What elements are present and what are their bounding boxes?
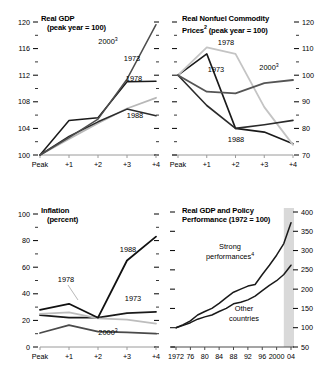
y-tick-label: 50 bbox=[301, 343, 309, 352]
x-tick-label: +3 bbox=[123, 160, 131, 169]
x-tick-label: +4 bbox=[289, 160, 297, 169]
x-tick-label: +3 bbox=[260, 160, 268, 169]
y-tick-label: 100 bbox=[302, 71, 314, 80]
x-tick-label: 92 bbox=[244, 352, 252, 361]
x-tick-label: Peak bbox=[32, 160, 49, 169]
y-tick-label: 20 bbox=[22, 316, 30, 325]
y-tick-label: 120 bbox=[302, 18, 314, 27]
y-tick-label: 80 bbox=[302, 124, 310, 133]
y-tick-label: 300 bbox=[301, 246, 313, 255]
series-label-strong-performances-1: Strong bbox=[219, 242, 241, 251]
chart-svg-inflation: 020406080100Peak+1+2+3+41988197819732000… bbox=[0, 192, 164, 384]
x-tick-label: +4 bbox=[152, 352, 160, 361]
series-label-1978: 1978 bbox=[58, 275, 74, 284]
y-tick-label: 70 bbox=[302, 151, 310, 160]
y-tick-label: 200 bbox=[301, 285, 313, 294]
x-tick-label: 1972 bbox=[168, 352, 184, 361]
series-label-other-countries-2: countries bbox=[229, 314, 259, 323]
series-line-1988 bbox=[178, 75, 293, 128]
x-tick-label: 04 bbox=[287, 352, 295, 361]
y-tick-label: 80 bbox=[22, 236, 30, 245]
panel-inflation: Inflation (percent) 020406080100Peak+1+2… bbox=[0, 192, 164, 384]
chart-svg-policy-performance: 5010015020025030035040019727680848892962… bbox=[164, 192, 329, 384]
y-tick-label: 60 bbox=[22, 263, 30, 272]
x-tick-label: 76 bbox=[186, 352, 194, 361]
series-label-1973: 1973 bbox=[125, 294, 141, 303]
x-tick-label: +1 bbox=[65, 160, 73, 169]
x-tick-label: 88 bbox=[230, 352, 238, 361]
x-tick-label: +3 bbox=[123, 352, 131, 361]
y-tick-label: 90 bbox=[302, 97, 310, 106]
series-label-other-countries-1: Other bbox=[235, 304, 254, 313]
y-tick-label: 40 bbox=[22, 289, 30, 298]
y-tick-label: 150 bbox=[301, 304, 313, 313]
x-tick-label: 2000 bbox=[269, 352, 285, 361]
series-line-strong-performances bbox=[176, 223, 291, 328]
y-tick-label: 350 bbox=[301, 227, 313, 236]
x-tick-label: +4 bbox=[152, 160, 160, 169]
y-tick-label: 0 bbox=[26, 343, 30, 352]
y-tick-label: 110 bbox=[302, 44, 313, 53]
series-label-1978: 1978 bbox=[218, 38, 234, 47]
panel-real-nonfuel-commodity-prices: Real Nonfuel Commodity Prices2 (peak yea… bbox=[164, 0, 329, 192]
four-panel-chart-figure: Real GDP (peak year = 100)Real GDP (peak… bbox=[0, 0, 329, 384]
chart-svg-real-gdp: 100104108112116120Peak+1+2+3+42000319731… bbox=[0, 0, 164, 192]
x-tick-label: 84 bbox=[215, 352, 223, 361]
y-tick-label: 400 bbox=[301, 208, 313, 217]
series-label-1988: 1988 bbox=[120, 245, 136, 254]
x-tick-label: +2 bbox=[94, 160, 102, 169]
x-tick-label: 80 bbox=[201, 352, 209, 361]
series-label-1973: 1973 bbox=[208, 65, 224, 74]
y-tick-label: 104 bbox=[18, 124, 30, 133]
series-label-1973: 1973 bbox=[124, 54, 140, 63]
x-tick-label: +1 bbox=[65, 352, 73, 361]
y-tick-label: 116 bbox=[19, 44, 30, 53]
y-tick-label: 250 bbox=[301, 265, 313, 274]
series-label-2000: 20003 bbox=[259, 62, 278, 72]
y-tick-label: 120 bbox=[18, 18, 30, 27]
series-label-2000: 20003 bbox=[98, 327, 117, 337]
panel-real-gdp-policy-performance: Real GDP and Policy Performance (1972 = … bbox=[164, 192, 329, 384]
x-tick-label: Peak bbox=[32, 352, 49, 361]
x-tick-label: Peak bbox=[170, 160, 187, 169]
x-tick-label: 96 bbox=[258, 352, 266, 361]
series-line-2000 bbox=[178, 75, 293, 93]
y-tick-label: 108 bbox=[18, 97, 30, 106]
series-label-1978: 1978 bbox=[126, 74, 142, 83]
series-label-1988: 1988 bbox=[228, 135, 244, 144]
y-tick-label: 100 bbox=[18, 151, 30, 160]
leader-line-1978 bbox=[68, 285, 78, 300]
panel-real-gdp: Real GDP (peak year = 100)Real GDP (peak… bbox=[0, 0, 164, 192]
y-tick-label: 112 bbox=[19, 71, 30, 80]
series-line-1978 bbox=[40, 98, 156, 155]
x-tick-label: +1 bbox=[203, 160, 211, 169]
x-tick-label: +2 bbox=[94, 352, 102, 361]
x-tick-label: +2 bbox=[231, 160, 239, 169]
y-tick-label: 100 bbox=[301, 323, 313, 332]
series-label-strong-performances-2: performances4 bbox=[206, 251, 254, 261]
series-label-1988: 1988 bbox=[127, 111, 143, 120]
y-tick-label: 100 bbox=[18, 210, 30, 219]
series-label-2000: 20003 bbox=[98, 36, 117, 46]
chart-svg-commodity-prices: 708090100110120Peak+1+2+3+41978197320003… bbox=[164, 0, 329, 192]
